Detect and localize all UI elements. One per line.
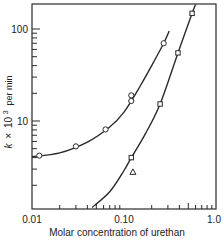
circle-marker	[37, 153, 42, 158]
circle-marker	[161, 41, 166, 46]
circle-marker	[129, 93, 134, 98]
x-tick-label-0.10: 0.10	[114, 214, 134, 225]
x-axis-ticks	[60, 203, 212, 209]
y-tick-label-10: 10	[17, 116, 29, 127]
y-tick-label-100: 100	[11, 24, 28, 35]
chart: 0.01 0.10 1.0 10 100 Molar concentration…	[0, 0, 224, 240]
triangle-marker	[130, 169, 136, 175]
y-axis-title-base: 10	[3, 117, 14, 129]
fit-curves	[32, 4, 196, 207]
y-axis-title-k: k	[3, 143, 14, 149]
circle-marker	[103, 127, 108, 132]
circle-marker	[73, 144, 78, 149]
plot-border	[32, 4, 216, 209]
svg-text:k × 10 3: k × 10 3 per min	[0, 75, 14, 148]
data-points	[37, 11, 195, 174]
y-axis-ticks	[32, 29, 40, 185]
circle-marker	[129, 98, 134, 103]
x-tick-label-1.0: 1.0	[207, 214, 221, 225]
x-axis-title: Molar concentration of urethan	[49, 227, 185, 238]
y-axis-title-exp: 3	[2, 110, 9, 114]
fit-curve-squares	[92, 4, 196, 207]
plot-frame	[32, 4, 216, 209]
square-marker	[190, 11, 194, 15]
y-axis-title: k × 10 3 per min	[0, 75, 14, 148]
y-axis-title-times: ×	[3, 133, 14, 139]
y-axis-title-unit: per min	[4, 75, 14, 105]
x-tick-label-0.01: 0.01	[22, 214, 42, 225]
fit-curve-circles	[32, 31, 169, 157]
square-marker	[129, 155, 133, 159]
square-marker	[176, 51, 180, 55]
square-marker	[158, 102, 162, 106]
